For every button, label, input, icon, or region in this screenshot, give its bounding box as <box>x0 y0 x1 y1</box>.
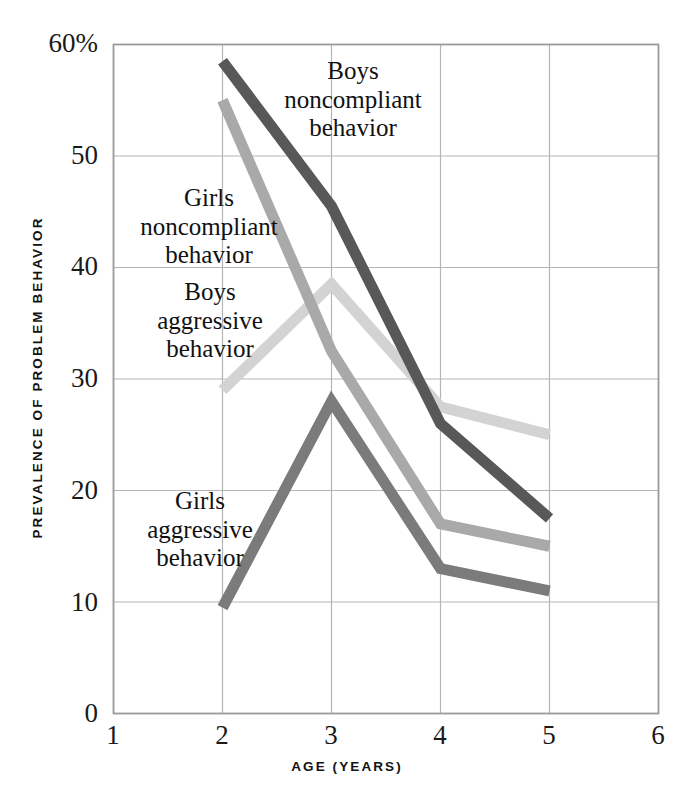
annotation-girls-aggressive: Girls aggressive behavior <box>120 487 280 573</box>
y-tick-label-40: 40 <box>38 253 98 280</box>
x-axis-title: AGE (YEARS) <box>0 759 694 774</box>
annotation-line-1: Girls <box>114 184 304 213</box>
annotation-line-3: behavior <box>130 335 290 364</box>
annotation-line-3: behavior <box>258 114 448 143</box>
x-tick-label-5: 5 <box>529 722 569 749</box>
annotation-line-2: aggressive <box>120 516 280 545</box>
annotation-line-1: Girls <box>120 487 280 516</box>
grid-lines <box>114 45 659 714</box>
y-tick-label-10: 10 <box>38 589 98 616</box>
annotation-line-2: noncompliant <box>114 213 304 242</box>
y-tick-label-60: 60% <box>38 30 98 57</box>
x-tick-label-3: 3 <box>311 722 351 749</box>
y-tick-label-50: 50 <box>38 142 98 169</box>
x-tick-label-4: 4 <box>420 722 460 749</box>
annotation-girls-noncompliant: Girls noncompliant behavior <box>114 184 304 270</box>
annotation-line-2: aggressive <box>130 307 290 336</box>
annotation-line-1: Boys <box>258 57 448 86</box>
annotation-line-3: behavior <box>120 544 280 573</box>
line-chart: PREVALENCE OF PROBLEM BEHAVIOR AGE (YEAR… <box>0 0 694 800</box>
annotation-boys-noncompliant: Boys noncompliant behavior <box>258 57 448 143</box>
x-tick-label-1: 1 <box>93 722 133 749</box>
x-tick-label-6: 6 <box>638 722 678 749</box>
y-tick-label-20: 20 <box>38 477 98 504</box>
annotation-boys-aggressive: Boys aggressive behavior <box>130 278 290 364</box>
annotation-line-1: Boys <box>130 278 290 307</box>
annotation-line-3: behavior <box>114 241 304 270</box>
y-tick-label-30: 30 <box>38 365 98 392</box>
annotation-line-2: noncompliant <box>258 86 448 115</box>
x-tick-label-2: 2 <box>202 722 242 749</box>
y-tick-label-0: 0 <box>38 700 98 727</box>
